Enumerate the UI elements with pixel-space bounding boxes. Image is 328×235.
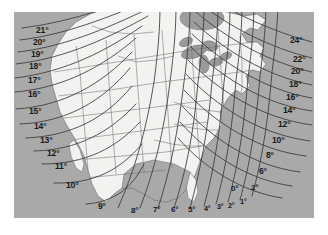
contour-label-south-7: 7°	[153, 206, 160, 214]
contour-label-west-16: 16°	[28, 90, 40, 99]
contour-label-west-9: 9°	[98, 202, 106, 211]
contour-label-west-20: 20°	[33, 38, 45, 47]
contour-label-east-16: 16°	[286, 93, 298, 102]
contour-label-west-19: 19°	[31, 50, 43, 59]
map-frame: 21° 20° 19° 18° 17° 16° 15° 14° 13° 12° …	[14, 12, 314, 218]
contour-label-east-8: 8°	[266, 151, 274, 160]
contour-label-west-18: 18°	[29, 62, 41, 71]
contour-label-south-8: 8°	[131, 207, 138, 215]
contour-label-west-17: 17°	[28, 76, 40, 85]
contour-label-south-3: 3°	[217, 203, 223, 210]
contour-label-west-21: 21°	[36, 26, 48, 35]
isogonic-map-figure: 21° 20° 19° 18° 17° 16° 15° 14° 13° 12° …	[0, 0, 328, 235]
contour-label-west-14: 14°	[34, 122, 46, 131]
contour-label-west-13: 13°	[40, 136, 52, 145]
contour-label-east-6: 6°	[259, 167, 267, 176]
contour-label-south-1: 1°	[240, 198, 246, 205]
contour-label-east-10: 10°	[272, 136, 284, 145]
contour-label-south-2: 2°	[228, 202, 234, 209]
contour-label-east-18: 18°	[289, 80, 301, 89]
contour-label-east-22: 22°	[293, 55, 305, 64]
contour-label-east-24: 24°	[290, 36, 302, 45]
contour-label-east-14: 14°	[283, 106, 295, 115]
contour-label-west-11: 11°	[55, 162, 67, 171]
contour-label-south-6: 6°	[171, 206, 178, 214]
contour-label-south-0: 0°	[231, 185, 238, 193]
contour-label-west-10: 10°	[66, 181, 78, 190]
contour-label-south-2b: 2°	[251, 184, 258, 192]
contour-label-west-15: 15°	[29, 107, 41, 116]
contour-label-south-4: 4°	[204, 205, 210, 212]
contour-label-east-20: 20°	[291, 67, 303, 76]
map-canvas	[14, 12, 314, 218]
contour-label-east-12: 12°	[278, 120, 290, 129]
contour-label-south-5: 5°	[188, 206, 195, 214]
contour-label-west-12: 12°	[47, 149, 59, 158]
